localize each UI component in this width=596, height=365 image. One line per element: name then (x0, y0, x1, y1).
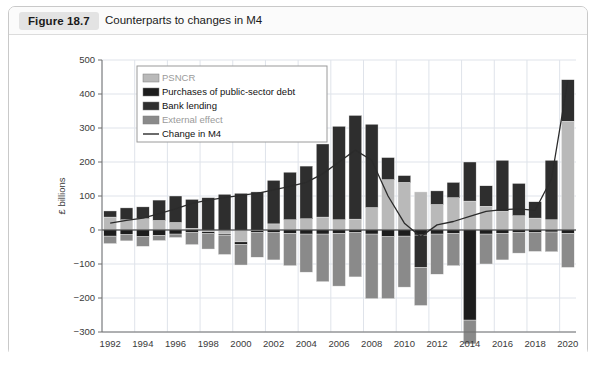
bar-group (398, 176, 411, 288)
bar-segment (496, 233, 509, 260)
bar-group (186, 199, 199, 244)
bar-segment (447, 198, 460, 230)
y-tick-label: 500 (79, 54, 95, 65)
x-tick-label: 1996 (165, 338, 186, 349)
bar-segment (447, 182, 460, 197)
bar-segment (218, 230, 231, 234)
bar-segment (316, 234, 329, 282)
bar-segment (545, 232, 558, 252)
bar-segment (251, 192, 264, 230)
bar-segment (365, 230, 378, 234)
bar-segment (153, 220, 166, 230)
bar-group (333, 126, 346, 286)
bar-segment (561, 121, 574, 230)
bar-segment (104, 211, 117, 217)
bar-segment (300, 230, 313, 234)
bar-group (480, 186, 493, 264)
bar-segment (300, 219, 313, 230)
bar-segment (463, 230, 476, 320)
bar-segment (153, 235, 166, 240)
bar-group (218, 194, 231, 254)
bar-segment (529, 218, 542, 230)
bar-segment (169, 230, 182, 234)
x-tick-label: 2016 (492, 338, 513, 349)
bar-segment (480, 234, 493, 264)
bar-group (316, 144, 329, 282)
bar-segment (414, 235, 427, 267)
bar-segment (480, 230, 493, 234)
bar-segment (235, 245, 248, 265)
y-axis-title: £ billions (56, 177, 67, 214)
bar-segment (284, 172, 297, 220)
bar-segment (480, 206, 493, 230)
y-tick-label: 0 (90, 224, 95, 235)
bar-segment (284, 233, 297, 265)
legend-swatch (143, 74, 159, 82)
legend-label: Bank lending (162, 100, 217, 111)
bar-segment (431, 191, 444, 205)
bar-segment (545, 160, 558, 220)
bar-segment (300, 166, 313, 219)
y-tick-label: −100 (74, 258, 95, 269)
x-tick-label: 2020 (557, 338, 578, 349)
legend-label: External effect (162, 114, 223, 125)
bar-segment (251, 233, 264, 257)
bar-segment (136, 237, 149, 247)
x-tick-label: 2010 (394, 338, 415, 349)
y-tick-label: −200 (74, 292, 95, 303)
bar-segment (104, 230, 117, 236)
bar-segment (447, 233, 460, 265)
y-tick-label: 300 (79, 122, 95, 133)
bar-segment (284, 230, 297, 233)
bar-segment (431, 205, 444, 231)
bar-segment (414, 267, 427, 305)
bar-segment (496, 211, 509, 230)
bar-segment (349, 115, 362, 219)
legend-label: PSNCR (162, 72, 195, 83)
bar-segment (512, 216, 525, 230)
chart-legend: PSNCRPurchases of public-sector debtBank… (137, 66, 327, 142)
bar-group (447, 182, 460, 265)
figure-header: Figure 18.7 Counterparts to changes in M… (9, 7, 587, 35)
bar-segment (251, 231, 264, 233)
bar-segment (136, 230, 149, 237)
chart-plot-area: 5004003002001000−100−200−300 19921994199… (9, 36, 587, 356)
legend-label: Purchases of public-sector debt (162, 86, 295, 97)
y-tick-label: 400 (79, 88, 95, 99)
bar-segment (284, 220, 297, 230)
bar-group (349, 115, 362, 276)
bar-segment (300, 234, 313, 272)
bar-segment (512, 233, 525, 253)
figure-number-badge: Figure 18.7 (19, 12, 99, 30)
bar-segment (365, 124, 378, 207)
bar-segment (496, 230, 509, 233)
bar-segment (169, 234, 182, 237)
bar-segment (431, 230, 444, 234)
bar-group (169, 196, 182, 237)
bar-segment (316, 144, 329, 217)
bar-segment (333, 230, 346, 233)
bar-segment (120, 230, 133, 235)
bar-segment (382, 237, 395, 299)
bar-segment (235, 230, 248, 242)
bar-segment (529, 233, 542, 252)
x-tick-label: 1994 (132, 338, 153, 349)
bar-group (431, 191, 444, 274)
bar-segment (365, 208, 378, 230)
bar-group (202, 198, 215, 249)
bar-segment (463, 162, 476, 201)
y-tick-labels: 5004003002001000−100−200−300 (74, 54, 102, 337)
legend-swatch (143, 102, 159, 110)
bar-segment (333, 126, 346, 220)
bar-segment (349, 233, 362, 277)
bar-segment (414, 192, 427, 230)
bar-segment (218, 236, 231, 255)
bar-group (153, 200, 166, 240)
bar-segment (382, 158, 395, 180)
x-tick-label: 1998 (198, 338, 219, 349)
bar-segment (316, 217, 329, 230)
bar-segment (447, 230, 460, 233)
counterparts-m4-chart: 5004003002001000−100−200−300 19921994199… (9, 36, 589, 356)
legend-swatch (143, 88, 159, 96)
bar-segment (153, 200, 166, 220)
